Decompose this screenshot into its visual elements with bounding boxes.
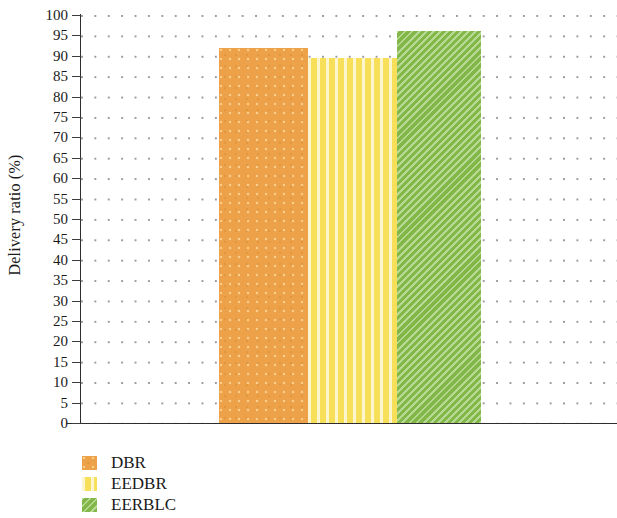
- y-tick-mark: [72, 403, 81, 404]
- y-axis-label-text: Delivery ratio (%): [6, 155, 24, 276]
- y-tick-label: 80: [53, 90, 68, 104]
- legend-item-label: EERBLC: [111, 495, 176, 514]
- bar-chart-figure: Delivery ratio (%) 051015202530354045505…: [0, 0, 617, 518]
- y-tick-label: 90: [53, 49, 68, 63]
- y-tick-label: 5: [61, 396, 69, 410]
- x-axis-line: [66, 423, 617, 424]
- y-tick-label: 85: [53, 69, 68, 83]
- y-tick-label: 35: [53, 273, 68, 287]
- y-tick-mark: [72, 301, 81, 302]
- y-tick-label: 15: [53, 355, 68, 369]
- legend-item-label: DBR: [111, 453, 146, 472]
- y-tick-mark: [72, 382, 81, 383]
- legend-swatch-icon: [82, 498, 97, 512]
- plot-area: [81, 15, 617, 423]
- y-tick-mark: [72, 137, 81, 138]
- y-tick-label: 10: [53, 375, 68, 389]
- bar-dbr: [219, 48, 308, 423]
- y-tick-mark: [72, 56, 81, 57]
- y-tick-label: 100: [46, 8, 69, 22]
- y-tick-label: 70: [53, 130, 68, 144]
- y-tick-mark: [72, 76, 81, 77]
- y-tick-label: 60: [53, 171, 68, 185]
- y-tick-mark: [72, 362, 81, 363]
- y-tick-label: 95: [53, 28, 68, 42]
- y-tick-mark: [72, 280, 81, 281]
- y-tick-mark: [72, 219, 81, 220]
- y-tick-label: 20: [53, 334, 68, 348]
- legend-item-label: EEDBR: [111, 474, 167, 493]
- y-tick-label: 25: [53, 314, 68, 328]
- chart-legend: DBREEDBREERBLC: [82, 452, 382, 515]
- y-tick-mark: [72, 117, 81, 118]
- y-tick-mark: [72, 341, 81, 342]
- y-tick-label: 30: [53, 294, 68, 308]
- legend-item-dbr[interactable]: DBR: [82, 452, 382, 473]
- y-tick-mark: [72, 423, 81, 424]
- y-tick-label: 50: [53, 212, 68, 226]
- y-tick-label: 40: [53, 253, 68, 267]
- y-tick-mark: [72, 260, 81, 261]
- legend-item-eerblc[interactable]: EERBLC: [82, 494, 382, 515]
- legend-item-eedbr[interactable]: EEDBR: [82, 473, 382, 494]
- y-tick-mark: [72, 35, 81, 36]
- y-tick-label: 65: [53, 151, 68, 165]
- legend-swatch-icon: [82, 456, 97, 470]
- y-tick-mark: [72, 15, 81, 16]
- y-tick-mark: [72, 178, 81, 179]
- y-axis-tick-labels: 0510152025303540455055606570758085909510…: [30, 0, 72, 438]
- bar-eedbr: [308, 58, 397, 423]
- y-tick-mark: [72, 97, 81, 98]
- y-tick-label: 45: [53, 232, 68, 246]
- y-tick-mark: [72, 239, 81, 240]
- y-tick-label: 75: [53, 110, 68, 124]
- legend-swatch-icon: [82, 477, 97, 491]
- y-axis-label: Delivery ratio (%): [0, 0, 30, 430]
- y-tick-label: 55: [53, 192, 68, 206]
- y-tick-mark: [72, 158, 81, 159]
- bar-eerblc: [397, 31, 481, 423]
- y-tick-mark: [72, 321, 81, 322]
- y-tick-mark: [72, 199, 81, 200]
